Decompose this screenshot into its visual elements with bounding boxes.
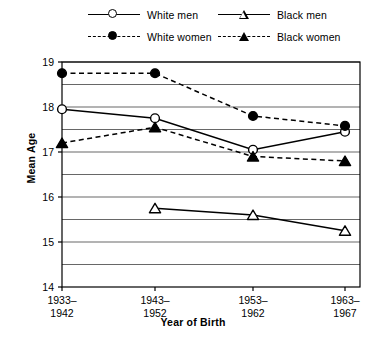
filled-circle-marker	[151, 69, 160, 78]
filled-circle-marker	[341, 122, 350, 131]
y-tick-label: 19	[28, 57, 54, 67]
filled-circle-marker	[58, 69, 67, 78]
plot-area: 141516171819 1933–19421943–19521953–1962…	[0, 0, 386, 344]
plot-svg	[0, 0, 386, 344]
series-line-white-women	[62, 73, 345, 126]
filled-circle-marker	[249, 112, 258, 121]
series-line-black-women	[62, 127, 345, 161]
y-axis-title: Mean Age	[25, 113, 37, 203]
x-axis-title: Year of Birth	[0, 316, 386, 328]
open-circle-marker	[151, 114, 160, 123]
y-tick-label: 18	[28, 102, 54, 112]
gridlines	[62, 62, 360, 265]
filled-triangle-marker	[149, 122, 160, 131]
y-tick-label: 15	[28, 237, 54, 247]
open-circle-marker	[58, 105, 67, 114]
chart-figure: White men Black men White women	[0, 0, 386, 344]
axis-ticks	[58, 62, 345, 291]
y-tick-label: 14	[28, 282, 54, 292]
